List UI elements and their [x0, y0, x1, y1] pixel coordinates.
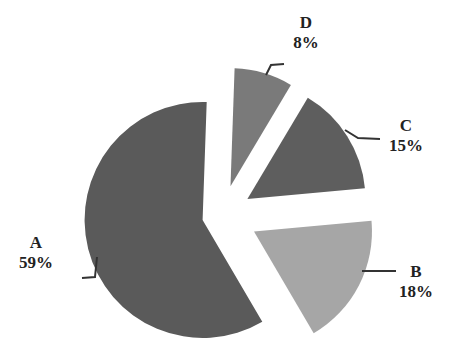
label-c-pct: 15%	[384, 136, 428, 156]
pie-chart	[0, 0, 454, 348]
label-c: C 15%	[384, 116, 428, 156]
label-b-name: B	[394, 262, 438, 282]
label-b: B 18%	[394, 262, 438, 302]
leader-line-c	[345, 130, 380, 139]
label-d: D 8%	[284, 13, 328, 53]
label-d-name: D	[284, 13, 328, 33]
label-b-pct: 18%	[394, 282, 438, 302]
pie-slice-b	[254, 221, 372, 333]
leader-line-d	[266, 64, 284, 75]
label-a-pct: 59%	[14, 253, 58, 273]
label-c-name: C	[384, 116, 428, 136]
pie-slices	[85, 68, 372, 338]
label-a: A 59%	[14, 233, 58, 273]
label-d-pct: 8%	[284, 33, 328, 53]
label-a-name: A	[14, 233, 58, 253]
